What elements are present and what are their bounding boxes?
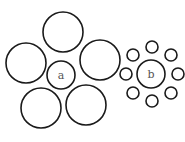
- left-surround-circle: [43, 12, 83, 52]
- right-surround-circle: [127, 87, 139, 99]
- right-surround-circle: [120, 68, 132, 80]
- right-surround-circle: [165, 87, 177, 99]
- ebbinghaus-diagram: a b: [0, 0, 185, 142]
- right-surround-circle: [146, 95, 158, 107]
- label-b: b: [147, 68, 154, 81]
- left-surround-circle: [80, 40, 120, 80]
- right-surround-circle: [127, 49, 139, 61]
- right-surround-circle: [172, 68, 184, 80]
- right-surround-circle: [165, 49, 177, 61]
- left-surround-circle: [21, 88, 61, 128]
- label-a: a: [58, 69, 65, 82]
- right-surround-circle: [146, 41, 158, 53]
- left-surround-circle: [6, 43, 46, 83]
- left-surround-circle: [66, 85, 106, 125]
